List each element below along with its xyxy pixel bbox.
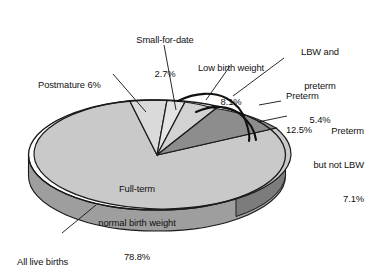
- label-preterm-but-not-lbw: Preterm but not LBW 7.1%: [262, 103, 364, 226]
- label-preterm-but-not-lbw-line2: but not LBW: [262, 159, 364, 170]
- label-full-term-line2: normal birth weight: [62, 217, 212, 228]
- label-full-term-line1: Full-term: [62, 183, 212, 194]
- label-low-birth-weight-line1: Low birth weight: [176, 62, 286, 73]
- label-all-live-births-line1: All live births: [17, 256, 137, 267]
- label-lbw-and-preterm-line1: LBW and: [278, 46, 362, 57]
- label-postmature: Postmature 6%: [38, 57, 148, 113]
- label-preterm-but-not-lbw-line1: Preterm: [262, 125, 364, 136]
- label-preterm-line1: Preterm: [286, 90, 366, 101]
- label-postmature-line1: Postmature 6%: [38, 79, 148, 90]
- label-preterm-but-not-lbw-line3: 7.1%: [262, 193, 364, 204]
- label-all-live-births: All live births: [17, 234, 137, 269]
